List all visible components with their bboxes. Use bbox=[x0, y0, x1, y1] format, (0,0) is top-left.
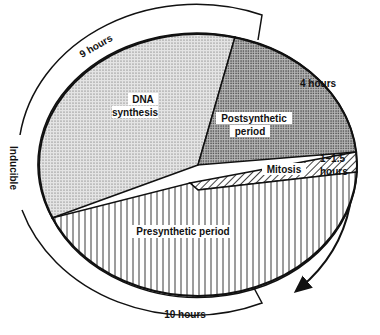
mitosis-duration-label-2: hours bbox=[320, 166, 348, 177]
pre-duration-label: 10 hours bbox=[164, 309, 206, 320]
dna-label-line2: synthesis bbox=[112, 107, 159, 118]
post-label-line1: Postsynthetic bbox=[221, 113, 287, 124]
inducible-label: Inducible bbox=[8, 146, 19, 190]
mitosis-label: Mitosis bbox=[267, 164, 302, 175]
post-label-line2: period bbox=[235, 126, 266, 137]
mitosis-duration-label-1: 1–1.5 bbox=[320, 153, 345, 164]
post-duration-label: 4 hours bbox=[300, 78, 337, 89]
cell-cycle-diagram: 9 hours Inducible 10 hours 4 hours 1–1.5… bbox=[0, 0, 380, 335]
pre-label: Presynthetic period bbox=[136, 226, 229, 237]
dna-label-line1: DNA bbox=[132, 94, 154, 105]
